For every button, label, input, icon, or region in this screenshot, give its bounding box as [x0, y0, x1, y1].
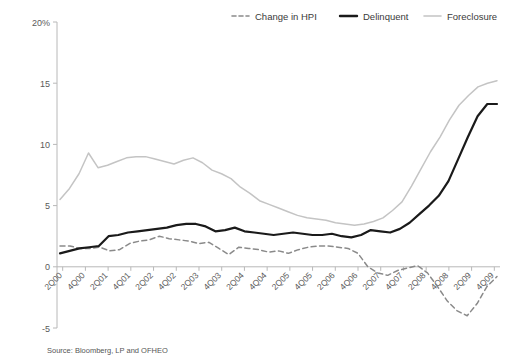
- x-tick-label: 2Q05: [269, 270, 291, 292]
- line-chart: 20%151050-5 2Q004Q002Q014Q012Q024Q022Q03…: [0, 0, 506, 357]
- chart-container: 20%151050-5 2Q004Q002Q014Q012Q024Q022Q03…: [0, 0, 506, 357]
- x-tick-label: 4Q01: [110, 270, 132, 292]
- source-note: Source: Bloomberg, LP and OFHEO: [47, 346, 168, 355]
- legend-label-change-in-hpi: Change in HPI: [255, 11, 317, 22]
- x-tick-label: 2Q03: [179, 270, 201, 292]
- x-tick-label: 2Q01: [88, 270, 110, 292]
- x-tick-label: 2Q04: [224, 270, 246, 292]
- x-tick-label: 4Q02: [156, 270, 178, 292]
- x-tick-label: 2Q06: [315, 270, 337, 292]
- legend-label-delinquent: Delinquent: [363, 11, 409, 22]
- x-tick-label: 4Q08: [429, 270, 451, 292]
- x-tick-label: 4Q04: [247, 270, 269, 292]
- y-tick-label: 15: [40, 79, 50, 89]
- x-tick-label: 4Q05: [292, 270, 314, 292]
- y-tick-label: 10: [40, 140, 50, 150]
- y-tick-label: -5: [42, 324, 50, 334]
- series-line-delinquent: [60, 104, 497, 253]
- x-tick-label: 2Q08: [406, 270, 428, 292]
- x-tick-label: 2Q09: [451, 270, 473, 292]
- chart-legend: Change in HPIDelinquentForeclosure: [232, 11, 497, 22]
- x-tick-label: 2Q00: [42, 270, 64, 292]
- y-tick-label: 20%: [32, 18, 50, 28]
- x-tick-label: 4Q07: [383, 270, 405, 292]
- y-tick-label: 0: [45, 262, 50, 272]
- legend-label-foreclosure: Foreclosure: [447, 11, 497, 22]
- x-tick-label: 4Q00: [65, 270, 87, 292]
- x-tick-label: 2Q02: [133, 270, 155, 292]
- y-tick-label: 5: [45, 201, 50, 211]
- x-tick-label: 4Q03: [201, 270, 223, 292]
- x-tick-label: 4Q06: [338, 270, 360, 292]
